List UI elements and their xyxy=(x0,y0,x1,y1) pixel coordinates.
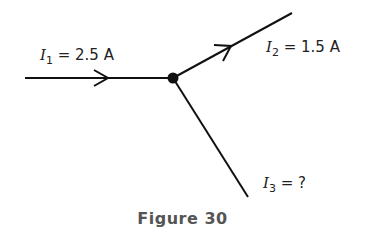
junction-node xyxy=(168,73,179,84)
label-i2-subscript: 2 xyxy=(272,46,279,59)
label-i1-value: = 2.5 A xyxy=(53,46,114,64)
junction-diagram xyxy=(0,0,365,236)
figure-caption: Figure 30 xyxy=(0,209,365,228)
wire-i3 xyxy=(173,78,248,197)
label-i1-subscript: 1 xyxy=(46,54,53,67)
label-i2: I2 = 1.5 A xyxy=(266,38,340,59)
label-i3: I3 = ? xyxy=(263,174,306,195)
label-i1: I1 = 2.5 A xyxy=(40,46,114,67)
label-i3-value: = ? xyxy=(276,174,306,192)
label-i2-value: = 1.5 A xyxy=(279,38,340,56)
label-i3-subscript: 3 xyxy=(269,182,276,195)
